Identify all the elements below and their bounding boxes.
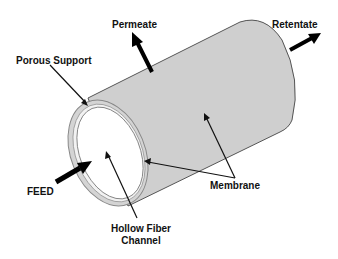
label-hollow-fiber-line1: Hollow Fiber xyxy=(106,223,176,235)
porous-support-pointer xyxy=(50,65,88,106)
label-feed: FEED xyxy=(27,186,54,198)
hollow-fiber-diagram xyxy=(0,0,338,259)
label-retentate: Retentate xyxy=(272,19,318,31)
label-hollow-fiber-channel: Hollow Fiber Channel xyxy=(106,223,176,247)
retentate-arrow-icon xyxy=(290,33,321,50)
label-porous-support: Porous Support xyxy=(16,55,92,67)
permeate-arrow-icon xyxy=(132,32,152,72)
label-permeate: Permeate xyxy=(112,19,157,31)
label-hollow-fiber-line2: Channel xyxy=(106,235,176,247)
label-membrane: Membrane xyxy=(210,180,260,192)
